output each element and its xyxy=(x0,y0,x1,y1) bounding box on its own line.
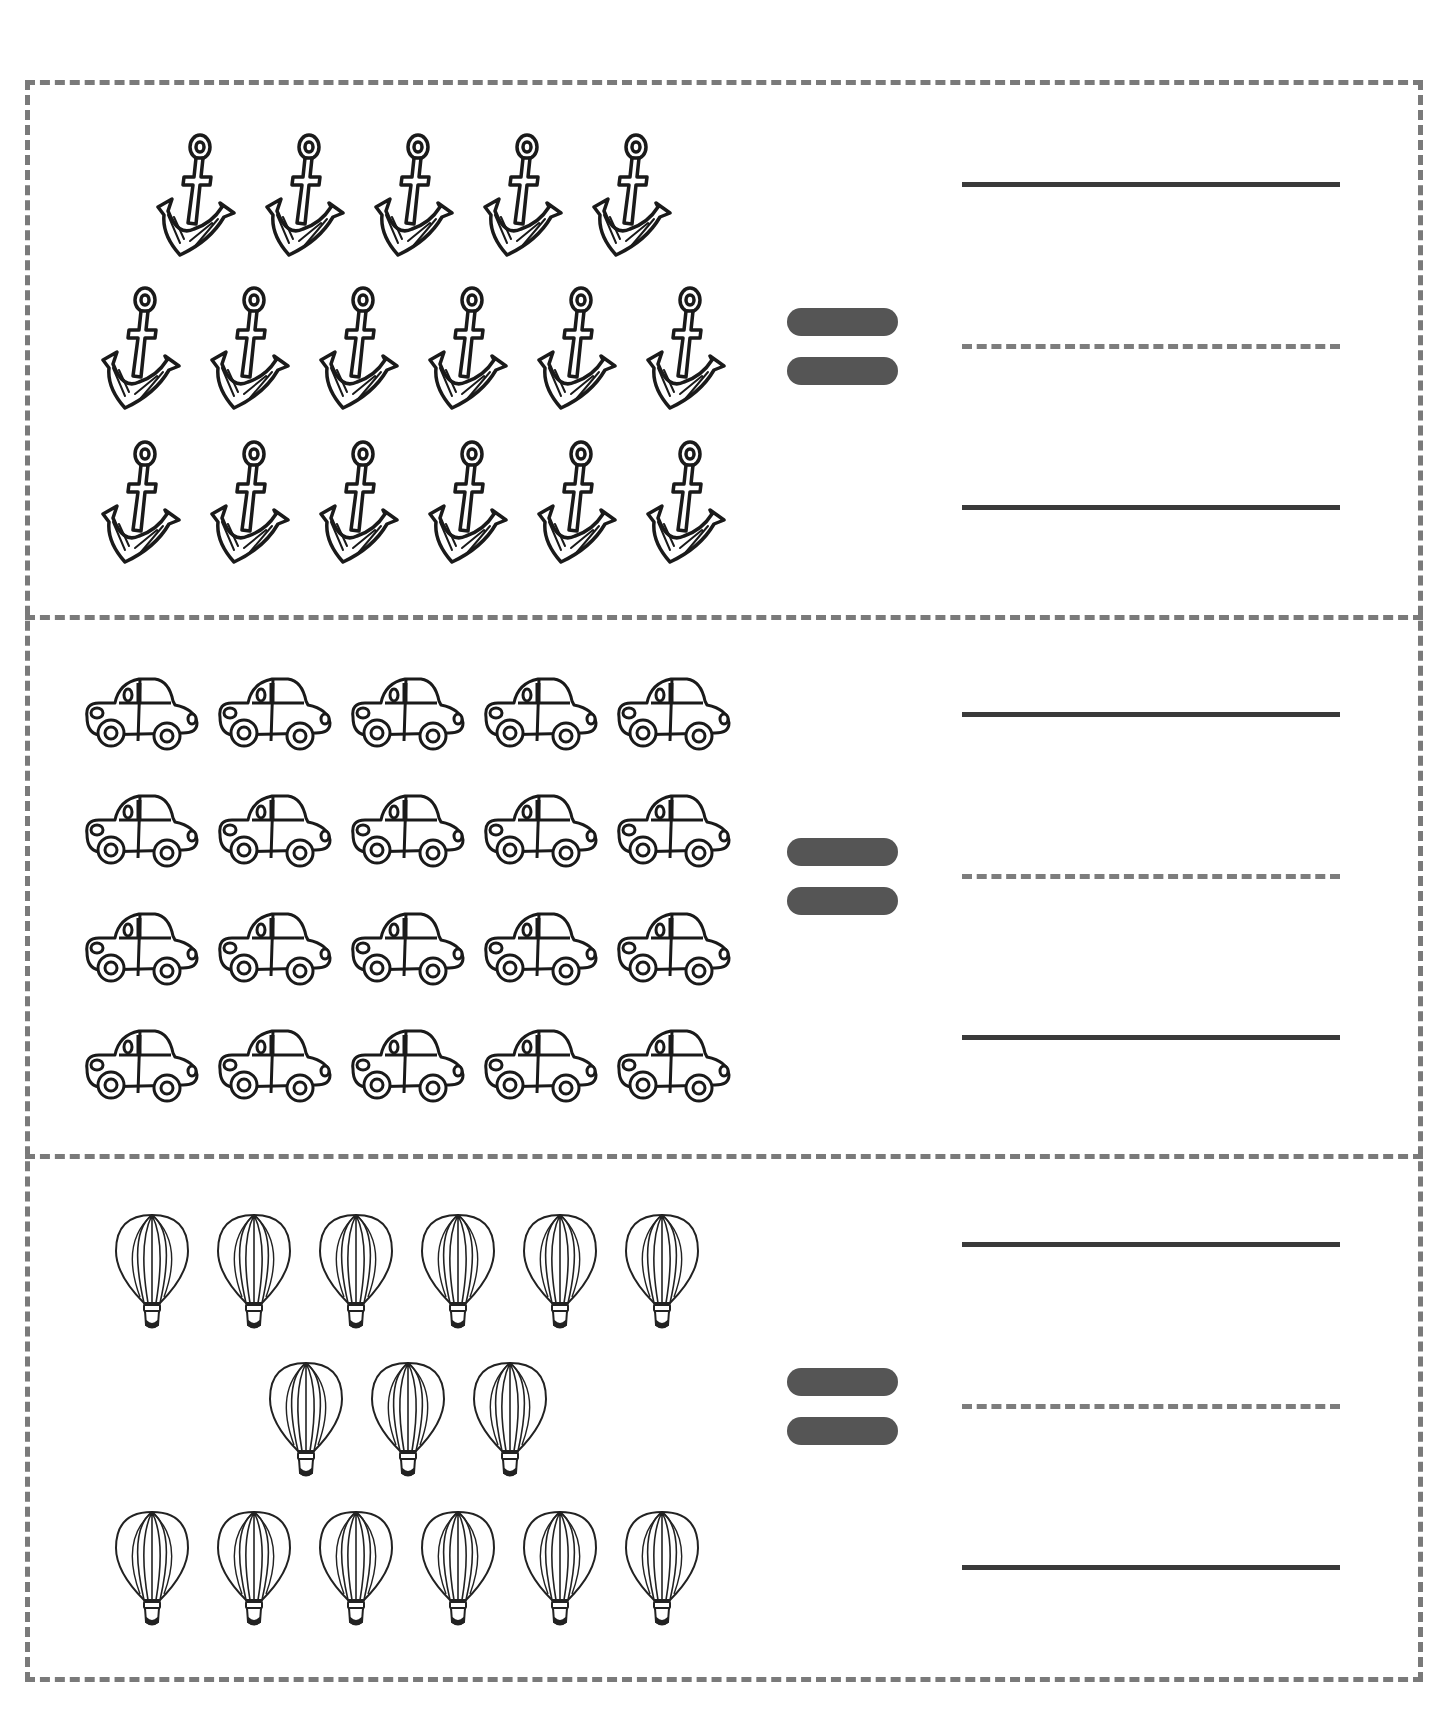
car-icon xyxy=(349,1027,465,1105)
anchor-icon xyxy=(640,286,726,412)
anchor-icon xyxy=(586,133,672,259)
section-divider xyxy=(25,1154,1423,1159)
hot-air-balloon-icon xyxy=(472,1361,548,1479)
car-icon xyxy=(83,1027,199,1105)
anchor-icon xyxy=(259,133,345,259)
hot-air-balloon-icon xyxy=(370,1361,446,1479)
equals-sign-top-bar xyxy=(787,838,898,866)
car-icon xyxy=(349,792,465,870)
hot-air-balloon-icon xyxy=(318,1510,394,1628)
hot-air-balloon-icon xyxy=(420,1213,496,1331)
anchor-icon xyxy=(204,286,290,412)
writing-line-bottom xyxy=(962,1565,1340,1570)
car-icon xyxy=(216,675,332,753)
anchor-icon xyxy=(95,440,181,566)
hot-air-balloon-icon xyxy=(114,1213,190,1331)
car-icon xyxy=(216,910,332,988)
anchor-icon xyxy=(313,440,399,566)
writing-line-bottom xyxy=(962,1035,1340,1040)
anchor-icon xyxy=(95,286,181,412)
equals-sign-bottom-bar xyxy=(787,887,898,915)
anchor-icon xyxy=(531,440,617,566)
car-icon xyxy=(83,910,199,988)
writing-guide-midline xyxy=(962,1404,1340,1409)
anchor-icon xyxy=(640,440,726,566)
equals-sign-top-bar xyxy=(787,308,898,336)
hot-air-balloon-icon xyxy=(522,1510,598,1628)
anchor-icon xyxy=(422,440,508,566)
equals-sign-bottom-bar xyxy=(787,1417,898,1445)
anchor-icon xyxy=(531,286,617,412)
hot-air-balloon-icon xyxy=(114,1510,190,1628)
anchor-icon xyxy=(422,286,508,412)
car-icon xyxy=(216,792,332,870)
car-icon xyxy=(615,1027,731,1105)
hot-air-balloon-icon xyxy=(216,1510,292,1628)
hot-air-balloon-icon xyxy=(216,1213,292,1331)
car-icon xyxy=(349,910,465,988)
writing-line-top xyxy=(962,1242,1340,1247)
equals-sign-top-bar xyxy=(787,1368,898,1396)
section-divider xyxy=(25,615,1423,620)
car-icon xyxy=(216,1027,332,1105)
writing-line-bottom xyxy=(962,505,1340,510)
anchor-icon xyxy=(204,440,290,566)
writing-guide-midline xyxy=(962,344,1340,349)
car-icon xyxy=(482,792,598,870)
hot-air-balloon-icon xyxy=(318,1213,394,1331)
writing-guide-midline xyxy=(962,874,1340,879)
car-icon xyxy=(482,675,598,753)
car-icon xyxy=(349,675,465,753)
writing-line-top xyxy=(962,712,1340,717)
car-icon xyxy=(615,910,731,988)
car-icon xyxy=(615,675,731,753)
car-icon xyxy=(83,675,199,753)
equals-sign-bottom-bar xyxy=(787,357,898,385)
hot-air-balloon-icon xyxy=(624,1213,700,1331)
anchor-icon xyxy=(150,133,236,259)
anchor-icon xyxy=(477,133,563,259)
car-icon xyxy=(482,910,598,988)
car-icon xyxy=(83,792,199,870)
hot-air-balloon-icon xyxy=(268,1361,344,1479)
writing-line-top xyxy=(962,182,1340,187)
hot-air-balloon-icon xyxy=(420,1510,496,1628)
hot-air-balloon-icon xyxy=(624,1510,700,1628)
hot-air-balloon-icon xyxy=(522,1213,598,1331)
anchor-icon xyxy=(313,286,399,412)
car-icon xyxy=(615,792,731,870)
car-icon xyxy=(482,1027,598,1105)
anchor-icon xyxy=(368,133,454,259)
